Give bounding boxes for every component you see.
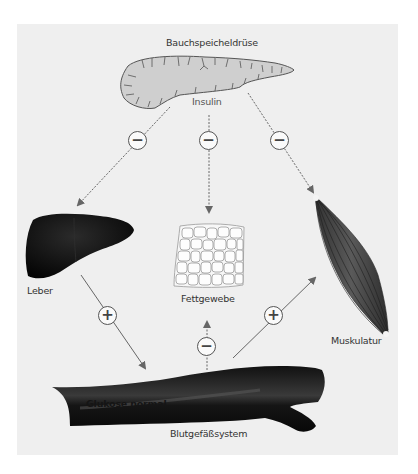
muscle-icon	[313, 195, 389, 337]
arrow-pancreas-liver	[78, 107, 170, 205]
inhibit-sign-blood-fat: −	[197, 337, 216, 356]
stimulate-sign-liver-blood: +	[98, 306, 117, 325]
label-liver: Leber	[27, 285, 53, 296]
inhibit-sign-fat: −	[199, 131, 218, 150]
diagram-canvas	[0, 0, 418, 474]
label-fat: Fettgewebe	[181, 293, 235, 304]
inhibit-sign-liver: −	[128, 131, 147, 150]
label-muscle: Muskulatur	[331, 335, 382, 346]
label-pancreas: Bauchspeicheldrüse	[166, 37, 258, 48]
liver-icon	[26, 214, 134, 279]
inhibit-sign-muscle: −	[270, 131, 289, 150]
fat-tissue-icon	[174, 224, 244, 288]
label-glucose-normal: Glukose normal	[86, 398, 167, 409]
label-blood-system: Blutgefäßsystem	[170, 428, 247, 439]
stimulate-sign-blood-muscle: +	[264, 306, 283, 325]
label-insulin: Insulin	[192, 96, 222, 107]
